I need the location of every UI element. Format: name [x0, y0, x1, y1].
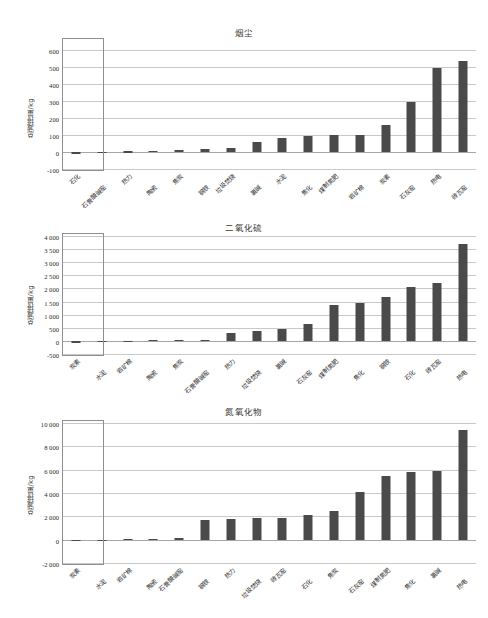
bar-slot: 石化 — [295, 423, 321, 563]
x-axis-tick-label: 石化 — [402, 368, 417, 383]
bar[interactable] — [355, 303, 364, 341]
bar[interactable] — [407, 287, 416, 341]
bar[interactable] — [71, 341, 80, 343]
y-axis-tick-label: 500 — [49, 64, 59, 71]
bar-slot: 石灰窑 — [347, 423, 373, 563]
bar[interactable] — [200, 340, 209, 341]
gridline: -100 — [63, 169, 476, 170]
bar[interactable] — [97, 341, 106, 342]
x-axis-tick-label: 石化 — [67, 172, 82, 187]
bar-slot: 焦炭 — [321, 423, 347, 563]
bar[interactable] — [433, 283, 442, 341]
bar[interactable] — [252, 331, 261, 341]
x-axis-tick-label: 焦化 — [351, 368, 366, 383]
bar-slot: 垃圾焚烧 — [244, 236, 270, 354]
bar[interactable] — [149, 539, 158, 540]
x-axis-tick-label: 水泥 — [93, 577, 108, 592]
bar[interactable] — [355, 492, 364, 540]
bar[interactable] — [175, 538, 184, 540]
bar[interactable] — [97, 540, 106, 541]
bar[interactable] — [278, 329, 287, 341]
bar[interactable] — [252, 142, 261, 152]
chart-eryanghualiu: 二氧化硫 总减排量/kg -50005001 0001 5002 0002 50… — [0, 221, 488, 409]
y-axis-tick-label: 0 — [56, 149, 59, 156]
bar-slot: 炭素 — [63, 423, 89, 563]
bar[interactable] — [123, 539, 132, 540]
y-axis-tick-label: 2 000 — [44, 514, 59, 521]
y-axis-tick-label: 1 500 — [44, 299, 59, 306]
bar[interactable] — [226, 333, 235, 341]
bar[interactable] — [381, 476, 390, 540]
bar[interactable] — [330, 305, 339, 341]
bar-slot: 热电 — [450, 236, 476, 354]
x-axis-tick-label: 水泥 — [93, 368, 108, 383]
x-axis-tick-label: 钢铁 — [196, 577, 211, 592]
bar-slot: 岩矿棉 — [347, 41, 373, 169]
bar-slot: 炭素 — [63, 236, 89, 354]
bar-slot: 热力 — [218, 423, 244, 563]
bar[interactable] — [149, 340, 158, 341]
bar-slot: 石膏酸碱窑 — [89, 41, 115, 169]
x-axis-tick-label: 垃圾焚烧 — [238, 577, 262, 600]
bar[interactable] — [304, 324, 313, 341]
bar[interactable] — [123, 341, 132, 342]
bar[interactable] — [355, 135, 364, 152]
x-axis-tick-label: 煤制氮肥 — [316, 172, 340, 195]
bar[interactable] — [200, 149, 209, 152]
x-axis-tick-label: 陶瓷 — [144, 368, 159, 383]
bar[interactable] — [304, 136, 313, 152]
bar-slot: 氯碱 — [244, 41, 270, 169]
bar[interactable] — [149, 151, 158, 152]
bar-slot: 陶瓷 — [140, 423, 166, 563]
bar[interactable] — [381, 297, 390, 341]
bar-slot: 热电 — [424, 41, 450, 169]
bar[interactable] — [278, 138, 287, 151]
bar[interactable] — [433, 471, 442, 540]
x-axis-tick-label: 石灰窑 — [346, 577, 366, 596]
bar-slot: 石膏酸碱窑 — [166, 423, 192, 563]
y-axis-label: 总减排量/kg — [26, 285, 36, 325]
bar[interactable] — [459, 61, 468, 152]
figure-page: 烟尘 总减排量/kg -1000100200300400500600石化石膏酸碱… — [0, 0, 488, 618]
bar[interactable] — [459, 430, 468, 540]
bar[interactable] — [175, 150, 184, 152]
bar[interactable] — [381, 125, 390, 152]
bar[interactable] — [226, 519, 235, 540]
x-axis-tick-label: 石膏酸碱窑 — [156, 566, 185, 593]
y-axis-tick-label: 600 — [49, 47, 59, 54]
bar[interactable] — [407, 472, 416, 539]
x-axis-tick-label: 炭素 — [377, 172, 392, 187]
bar-slot: 热力 — [115, 41, 141, 169]
y-axis-tick-label: 3 000 — [44, 260, 59, 267]
chart-title: 烟尘 — [0, 26, 488, 38]
bar[interactable] — [200, 520, 209, 540]
bar-slot: 岩矿棉 — [115, 236, 141, 354]
chart-title: 氮氧化物 — [0, 405, 488, 417]
x-axis-tick-label: 氯碱 — [273, 357, 288, 372]
bar[interactable] — [407, 102, 416, 152]
bar-slot: 石灰窑 — [295, 236, 321, 354]
chart-danyanghuawu: 氮氧化物 总减排量/kg -2 00002 0004 0006 0008 000… — [0, 405, 488, 618]
bar[interactable] — [123, 151, 132, 152]
bar[interactable] — [71, 540, 80, 541]
x-axis-tick-label: 陶瓷 — [144, 183, 159, 198]
bar[interactable] — [278, 518, 287, 540]
bar[interactable] — [71, 152, 80, 154]
bar[interactable] — [459, 244, 468, 340]
bar[interactable] — [175, 340, 184, 341]
bar[interactable] — [330, 135, 339, 152]
bar[interactable] — [330, 511, 339, 540]
y-axis-tick-label: -100 — [47, 167, 59, 174]
plot-area: -2 00002 0004 0006 0008 00010 000炭素水泥岩矿棉… — [62, 423, 476, 563]
x-axis-tick-label: 氯碱 — [428, 566, 443, 581]
bar[interactable] — [304, 515, 313, 540]
bar[interactable] — [226, 148, 235, 152]
bar-slot: 钢铁 — [192, 423, 218, 563]
x-axis-tick-label: 石膏酸碱窑 — [182, 368, 211, 395]
x-axis-tick-label: 岩矿棉 — [114, 357, 134, 376]
bar[interactable] — [97, 152, 106, 153]
bar[interactable] — [252, 518, 261, 539]
x-axis-tick-label: 焦化 — [402, 577, 417, 592]
bar[interactable] — [433, 68, 442, 152]
bar-slot: 石化 — [63, 41, 89, 169]
